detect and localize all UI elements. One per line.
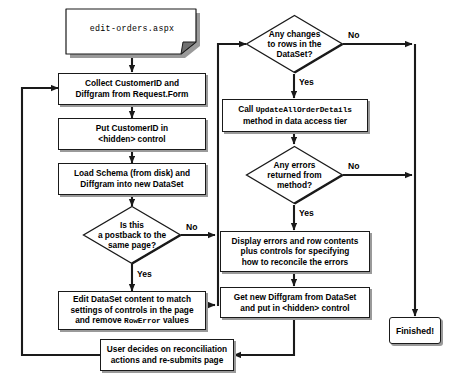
label-postback-no: No [186,222,197,232]
any-changes-line2: to rows in the [268,39,322,49]
label-postback-yes: Yes [137,269,152,279]
call-update-line1-pre: Call [238,104,256,114]
call-update-line2: method in data access tier [238,116,352,127]
document-label: edit-orders.aspx [90,24,174,42]
node-get-new-diffgram: Get new Diffgram from DataSet and put in… [220,287,370,318]
get-diffgram-line2: and put in <hidden> control [234,303,357,314]
any-errors-line1: Any errors [267,160,321,170]
edit-dataset-line3-pre: and remove [75,315,124,325]
display-errors-line2: plus controls for specifying [232,246,359,257]
label-changes-yes: Yes [299,77,314,87]
node-any-changes-decision: Any changes to rows in the DataSet? [245,14,344,74]
load-schema-line1: Load Schema (from disk) and [74,168,190,179]
put-hidden-line2: <hidden> control [96,134,168,145]
edit-dataset-line3: and remove RowError values [70,315,193,327]
node-collect-customerid: Collect CustomerID and Diffgram from Req… [58,73,206,105]
is-postback-line2: a postback to the [98,230,166,240]
label-changes-no: No [348,30,359,40]
node-edit-orders-document: edit-orders.aspx [62,6,202,59]
node-call-update-all-order-details: Call UpdateAllOrderDetails method in dat… [222,99,368,132]
node-display-errors: Display errors and row contents plus con… [220,231,370,272]
load-schema-line2: Diffgram into new DataSet [74,179,190,190]
call-update-line1: Call UpdateAllOrderDetails [238,104,352,116]
is-postback-line3: same page? [98,240,166,250]
finished-label: Finished! [396,326,434,336]
node-put-customerid-hidden: Put CustomerID in <hidden> control [58,118,206,150]
node-is-postback-decision: Is this a postback to the same page? [82,205,182,265]
put-hidden-line1: Put CustomerID in [96,123,168,134]
edge-get-to-user [234,318,294,355]
node-user-decides: User decides on reconciliation actions a… [100,339,234,371]
node-any-errors-decision: Any errors returned from method? [245,145,344,205]
any-errors-line3: method? [267,180,321,190]
user-decides-line2: actions and re-submits page [107,355,227,366]
collect-line1: Collect CustomerID and [76,78,189,89]
any-changes-line3: DataSet? [268,49,322,59]
collect-line2: Diffgram from Request.Form [76,89,189,100]
flowchart-canvas: edit-orders.aspx Collect CustomerID and … [0,0,454,391]
edit-dataset-rowerror: RowError [124,317,161,325]
call-update-method-name: UpdateAllOrderDetails [256,106,352,114]
node-load-schema: Load Schema (from disk) and Diffgram int… [58,163,206,195]
get-diffgram-line1: Get new Diffgram from DataSet [234,292,357,303]
display-errors-line3: how to reconcile the errors [232,257,359,268]
node-finished: Finished! [389,317,441,344]
display-errors-line1: Display errors and row contents [232,236,359,247]
label-errors-no: No [348,161,359,171]
edit-dataset-line3-post: values [161,315,189,325]
edit-dataset-line1: Edit DataSet content to match [70,294,193,305]
any-changes-line1: Any changes [268,29,322,39]
node-edit-dataset: Edit DataSet content to match settings o… [58,291,206,330]
is-postback-line1: Is this [98,220,166,230]
any-errors-line2: returned from [267,170,321,180]
edit-dataset-line2: settings of controls in the page [70,305,193,316]
label-errors-yes: Yes [299,208,314,218]
user-decides-line1: User decides on reconciliation [107,344,227,355]
